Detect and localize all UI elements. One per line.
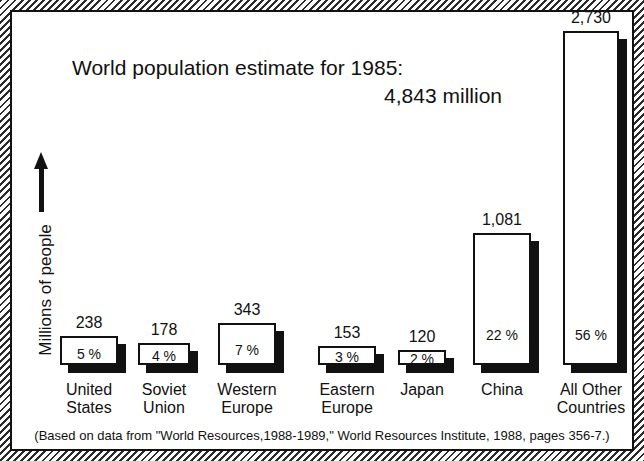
category-label-line1: All Other: [549, 381, 633, 399]
bar-group: 1784 %SovietUnion: [138, 12, 190, 449]
category-label: All OtherCountries: [549, 381, 633, 418]
bar-value-label: 1,081: [473, 211, 531, 229]
category-label-line2: Countries: [549, 399, 633, 417]
bar-group: 3437 %WesternEurope: [218, 12, 276, 449]
bar-body: [563, 31, 619, 365]
chart-figure: World population estimate for 1985: 4,84…: [0, 0, 644, 461]
bar[interactable]: [563, 31, 619, 365]
category-label: WesternEurope: [204, 381, 290, 418]
bar-percent-label: 7 %: [218, 342, 276, 358]
bar-value-label: 2,730: [563, 9, 619, 27]
bar-value-label: 153: [318, 324, 376, 342]
bar-percent-label: 5 %: [60, 346, 118, 362]
category-label-line1: China: [459, 381, 545, 399]
category-label: China: [459, 381, 545, 399]
bar-percent-label: 56 %: [563, 327, 619, 343]
category-label-line1: Soviet: [124, 381, 204, 399]
bar-value-label: 120: [398, 328, 446, 346]
category-label-line2: Europe: [204, 399, 290, 417]
bar-percent-label: 22 %: [473, 327, 531, 343]
bar-percent-label: 4 %: [138, 348, 190, 364]
category-label: UnitedStates: [46, 381, 132, 418]
category-label-line1: Japan: [384, 381, 460, 399]
bar-percent-label: 2 %: [398, 351, 446, 367]
bar-group: 1,08122 %China: [473, 12, 531, 449]
bar-value-label: 343: [218, 301, 276, 319]
category-label: EasternEurope: [304, 381, 390, 418]
source-caption: (Based on data from "World Resources,198…: [12, 428, 632, 443]
bar-group: 2385 %UnitedStates: [60, 12, 118, 449]
bar-group: 2,73056 %All OtherCountries: [563, 12, 619, 449]
category-label-line1: United: [46, 381, 132, 399]
category-label-line2: Union: [124, 399, 204, 417]
bar-percent-label: 3 %: [318, 349, 376, 365]
category-label-line2: Europe: [304, 399, 390, 417]
bar-value-label: 178: [138, 321, 190, 339]
category-label: Japan: [384, 381, 460, 399]
bar-value-label: 238: [60, 314, 118, 332]
category-label-line1: Eastern: [304, 381, 390, 399]
bar-group: 1202 %Japan: [398, 12, 446, 449]
category-label-line1: Western: [204, 381, 290, 399]
category-label: SovietUnion: [124, 381, 204, 418]
bar-group: 1533 %EasternEurope: [318, 12, 376, 449]
plot-area: 2385 %UnitedStates1784 %SovietUnion3437 …: [12, 12, 632, 449]
chart-frame: World population estimate for 1985: 4,84…: [10, 10, 634, 451]
bar-body: [473, 233, 531, 365]
bar[interactable]: [473, 233, 531, 365]
category-label-line2: States: [46, 399, 132, 417]
